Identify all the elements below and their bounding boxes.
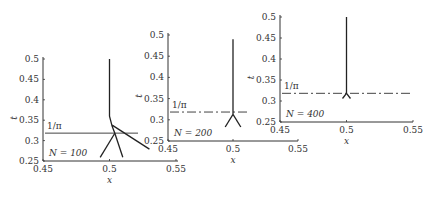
y-tick-label: 0.5 bbox=[262, 12, 277, 22]
y-tick-label: 0.45 bbox=[256, 33, 276, 43]
x-axis-label: x bbox=[344, 136, 349, 146]
x-tick-label: 0.55 bbox=[166, 164, 186, 174]
y-tick-label: 0.3 bbox=[150, 115, 165, 125]
x-axis-label: x bbox=[107, 175, 112, 185]
y-tick-label: 0.45 bbox=[19, 74, 39, 84]
reference-line-label: 1/π bbox=[172, 100, 187, 110]
reference-line-label: 1/π bbox=[47, 121, 62, 131]
y-tick-label: 0.35 bbox=[256, 75, 276, 85]
y-tick-label: 0.35 bbox=[19, 115, 39, 125]
y-tick-label: 0.3 bbox=[25, 136, 40, 146]
y-axis-label: t bbox=[134, 94, 144, 98]
x-tick-label: 0.55 bbox=[403, 125, 423, 135]
x-tick-label: 0.45 bbox=[270, 125, 290, 135]
y-axis-label: t bbox=[246, 75, 256, 79]
x-tick-label: 0.5 bbox=[102, 164, 117, 174]
y-tick-label: 0.4 bbox=[25, 95, 40, 105]
x-tick-label: 0.55 bbox=[288, 144, 308, 154]
y-tick-label: 0.5 bbox=[25, 54, 40, 64]
figure: 0.250.30.350.40.450.50.450.50.55xt1/πN =… bbox=[0, 0, 435, 198]
x-tick-label: 0.5 bbox=[339, 125, 354, 135]
y-tick-label: 0.45 bbox=[144, 51, 164, 61]
x-tick-label: 0.45 bbox=[158, 144, 178, 154]
x-tick-label: 0.5 bbox=[226, 144, 241, 154]
y-tick-label: 0.4 bbox=[262, 54, 277, 64]
n-label: N = 100 bbox=[48, 148, 88, 158]
y-axis-label: t bbox=[9, 116, 19, 120]
y-tick-label: 0.3 bbox=[262, 96, 277, 106]
reference-line-label: 1/π bbox=[284, 81, 299, 91]
x-tick-label: 0.45 bbox=[33, 164, 53, 174]
y-tick-label: 0.5 bbox=[150, 30, 165, 40]
n-label: N = 200 bbox=[173, 128, 213, 138]
y-tick-label: 0.4 bbox=[150, 72, 165, 82]
n-label: N = 400 bbox=[285, 109, 325, 119]
y-tick-label: 0.35 bbox=[144, 94, 164, 104]
x-axis-label: x bbox=[230, 155, 235, 165]
